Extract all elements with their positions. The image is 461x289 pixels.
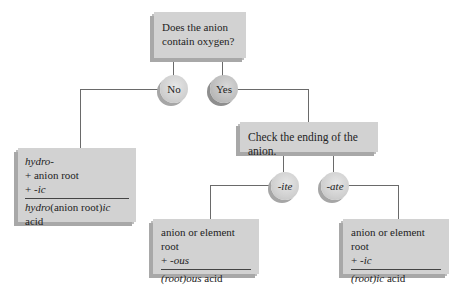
- result-ic: ic: [103, 201, 111, 213]
- plus-sign: +: [25, 183, 34, 195]
- sum-rule: [351, 269, 441, 270]
- result-root: (root): [161, 272, 186, 284]
- connector-question-to-yes: [222, 58, 223, 76]
- check-ending-text: Check the ending of the anion.: [248, 130, 370, 158]
- ite-root-line: anion or element root: [161, 225, 251, 253]
- ite-label: -ite: [278, 180, 293, 192]
- plus-sign: +: [351, 254, 360, 266]
- anion-root-line: + anion root: [25, 168, 129, 182]
- sum-rule: [161, 269, 251, 270]
- yes-label: Yes: [216, 83, 232, 95]
- connector-no-horizontal: [80, 89, 160, 90]
- ite-result-box: anion or element root + -ous (root)ous a…: [153, 219, 259, 274]
- question-line-2: contain oxygen?: [162, 34, 238, 48]
- result-root: (root): [351, 272, 376, 284]
- ate-root-line: anion or element root: [351, 225, 441, 253]
- sum-rule: [25, 198, 129, 199]
- ic-suffix-line: + -ic: [25, 182, 129, 196]
- connector-yes-vertical: [308, 89, 309, 122]
- hydro-acid-result: hydro(anion root)ic acid: [25, 200, 129, 228]
- ic-acid-result: (root)ic acid: [351, 271, 441, 285]
- result-hydro: hydro: [25, 201, 50, 213]
- ate-label: -ate: [326, 180, 343, 192]
- ous-suffix: -ous: [170, 254, 189, 266]
- ic-suffix: -ic: [360, 254, 372, 266]
- no-label: No: [167, 83, 180, 95]
- yes-branch-node: Yes: [210, 75, 238, 103]
- check-ending-box: Check the ending of the anion.: [240, 122, 378, 152]
- ous-acid-result: (root)ous acid: [161, 271, 251, 285]
- ous-suffix-line: + -ous: [161, 253, 251, 267]
- hydro-prefix: hydro-: [25, 154, 129, 168]
- connector-no-vertical: [80, 89, 81, 148]
- ite-branch-node: -ite: [271, 172, 299, 200]
- result-anion-root: (anion root): [50, 201, 102, 213]
- result-acid: acid: [384, 272, 405, 284]
- ic-suffix-line: + -ic: [351, 253, 441, 267]
- question-line-1: Does the anion: [162, 20, 238, 34]
- connector-question-to-no: [173, 58, 174, 76]
- result-ous: ous: [186, 272, 201, 284]
- plus-sign: +: [161, 254, 170, 266]
- ic-suffix: -ic: [34, 183, 46, 195]
- question-box: Does the anion contain oxygen?: [154, 12, 246, 58]
- no-oxygen-result-box: hydro- + anion root + -ic hydro(anion ro…: [18, 148, 136, 222]
- no-branch-node: No: [160, 75, 188, 103]
- connector-ite-horizontal: [210, 185, 272, 186]
- ate-branch-node: -ate: [321, 172, 349, 200]
- result-acid: acid: [202, 272, 223, 284]
- result-acid: acid: [25, 215, 43, 227]
- connector-ate-horizontal: [345, 185, 399, 186]
- ate-result-box: anion or element root + -ic (root)ic aci…: [343, 219, 449, 274]
- connector-yes-horizontal: [236, 89, 309, 90]
- connector-ite-vertical: [210, 185, 211, 219]
- connector-ate-vertical: [398, 185, 399, 219]
